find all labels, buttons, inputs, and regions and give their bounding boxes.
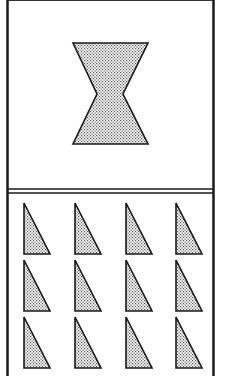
right-triangle-shape bbox=[24, 317, 50, 368]
right-triangle-shape bbox=[24, 260, 50, 311]
right-triangle-shape bbox=[126, 317, 152, 368]
hourglass-shape bbox=[73, 43, 148, 144]
right-triangle-shape bbox=[24, 203, 50, 254]
right-triangle-shape bbox=[75, 203, 101, 254]
top-panel bbox=[73, 43, 148, 144]
right-triangle-shape bbox=[126, 260, 152, 311]
diagram-canvas bbox=[0, 0, 233, 376]
bottom-panel bbox=[24, 203, 202, 368]
right-triangle-shape bbox=[75, 260, 101, 311]
panel-divider bbox=[8, 189, 213, 193]
right-triangle-shape bbox=[176, 317, 202, 368]
right-triangle-shape bbox=[75, 317, 101, 368]
right-triangle-shape bbox=[176, 203, 202, 254]
right-triangle-shape bbox=[176, 260, 202, 311]
right-triangle-shape bbox=[126, 203, 152, 254]
